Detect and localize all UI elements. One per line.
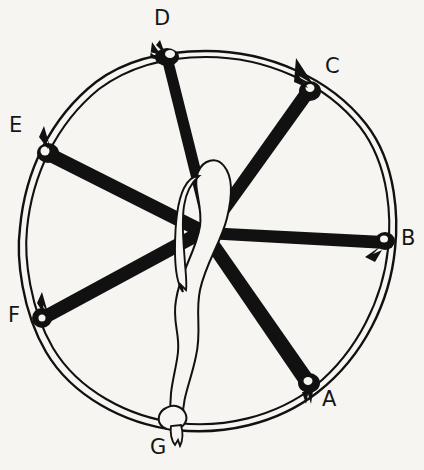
cord-A bbox=[202, 233, 315, 389]
cord-G-group bbox=[159, 160, 231, 446]
cord-B bbox=[206, 227, 386, 249]
label-F: F bbox=[8, 305, 21, 326]
label-G: G bbox=[150, 437, 167, 458]
knot-E bbox=[37, 126, 59, 163]
label-E: E bbox=[9, 115, 23, 136]
label-A: A bbox=[322, 389, 337, 410]
rope-diagram-svg bbox=[0, 0, 424, 470]
figure-canvas: A B C D E F G bbox=[0, 0, 424, 470]
label-D: D bbox=[154, 8, 171, 29]
label-B: B bbox=[401, 228, 416, 249]
label-C: C bbox=[325, 56, 340, 77]
